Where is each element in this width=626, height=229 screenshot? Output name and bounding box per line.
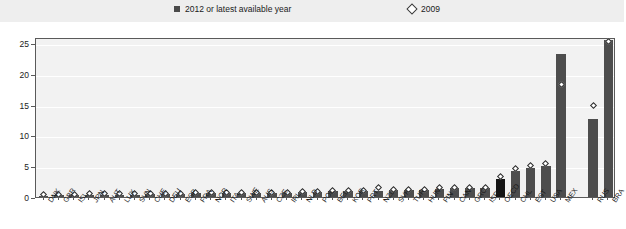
x-axis-tick-mark [317,197,318,200]
x-axis-tick-mark [378,197,379,200]
x-axis-tick-mark [88,197,89,200]
y-axis-tick-label: 20 [20,71,29,79]
x-axis-tick-mark [119,197,120,200]
x-axis-tick-mark [545,197,546,200]
bar-mex [556,54,565,197]
x-axis-tick-mark [484,197,485,200]
x-axis-tick-mark [607,197,608,200]
x-axis-tick-mark [149,197,150,200]
y-axis: 0510152025 [0,38,35,198]
x-axis-tick-mark [408,197,409,200]
legend-entry: 2012 or latest available year [174,4,291,14]
x-axis-tick-mark [104,197,105,200]
y-axis-tick-label: 25 [20,40,29,48]
legend-label: 2009 [421,4,440,14]
x-axis-tick-mark [180,197,181,200]
bars-layer [36,39,614,197]
x-axis-tick-mark [58,197,59,200]
bar-rus [588,119,597,197]
legend-entry: 2009 [408,4,440,14]
x-axis-tick-mark [73,197,74,200]
x-axis-tick-mark [301,197,302,200]
x-axis-tick-mark [515,197,516,200]
x-axis-tick-mark [347,197,348,200]
chart-legend: 2012 or latest available year2009 [0,0,624,22]
legend-label: 2012 or latest available year [185,4,291,14]
filled-square-icon [174,6,180,12]
x-axis-tick-mark [210,197,211,200]
x-axis-tick-mark [560,197,561,200]
bar-bra [604,40,613,197]
y-axis-tick-label: 5 [24,163,29,171]
x-axis-tick-mark [530,197,531,200]
open-diamond-icon [406,3,417,14]
x-axis-tick-mark [164,197,165,200]
plot-area [35,38,615,198]
x-axis-tick-mark [499,197,500,200]
y-axis-tick-label: 15 [20,102,29,110]
x-axis-tick-mark [362,197,363,200]
x-axis-tick-mark [256,197,257,200]
x-axis-labels: DNKGBRISLJPNAUTLUXSVNCHEDEUESPFRANORITAS… [35,199,615,229]
x-axis-tick-mark [43,197,44,200]
x-axis-tick-mark [286,197,287,200]
x-axis-tick-mark [225,197,226,200]
x-axis-tick-mark [438,197,439,200]
x-axis-tick-mark [393,197,394,200]
x-axis-tick-mark [332,197,333,200]
y-axis-tick-label: 10 [20,132,29,140]
x-axis-tick-mark [592,197,593,200]
x-axis-tick-mark [241,197,242,200]
x-axis-tick-mark [423,197,424,200]
x-axis-tick-mark [271,197,272,200]
x-axis-tick-mark [454,197,455,200]
x-axis-tick-mark [469,197,470,200]
marker-2009-rus [590,102,597,109]
x-axis-tick-mark [195,197,196,200]
y-axis-tick-label: 0 [24,194,29,202]
x-axis-tick-mark [134,197,135,200]
